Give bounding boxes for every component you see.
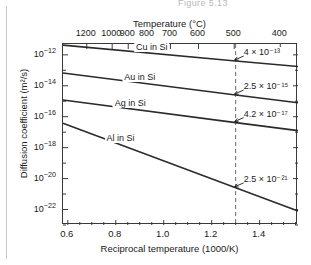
top-tick-700: 700 [162,28,177,38]
top-tick-1000: 1000 [101,28,121,38]
x-tick-0.8: 0.8 [108,228,121,239]
x-tick-1.4: 1.4 [252,228,265,239]
x-axis-title: Reciprocal temperature (1000/K) [0,243,311,254]
series-label-ag-in-si: Ag in Si [113,98,148,108]
top-tick-1200: 1200 [76,28,96,38]
annotation-ag-in-si: 4.2 × 10⁻¹⁷ [243,109,289,119]
series-line-al-in-si [63,123,298,211]
top-axis-title: Temperature (°C) [0,18,311,29]
x-tick-0.6: 0.6 [60,228,73,239]
page-header-fragment: Figure 5.13 [178,0,311,9]
x-tick-1.2: 1.2 [204,228,217,239]
annotation-au-in-si: 2.5 × 10⁻¹⁵ [243,81,290,91]
annotation-cu-in-si: 4 × 10⁻¹³ [243,47,281,57]
top-tick-900: 900 [120,28,135,38]
annotation-al-in-si: 2.5 × 10⁻²¹ [243,174,289,184]
y-tick-1e-14: 10−14 [14,80,56,90]
y-tick-1e-12: 10−12 [14,49,56,59]
plot-canvas [63,44,298,225]
diffusion-coefficient-figure: Figure 5.13 Temperature (°C) Reciprocal … [0,0,311,265]
series-label-al-in-si: Al in Si [105,133,137,143]
series-label-cu-in-si: Cu in Si [134,42,170,52]
top-tick-800: 800 [139,28,154,38]
plot-area: Cu in SiAu in SiAg in SiAl in Si [62,43,297,224]
x-axis-title-text: Reciprocal temperature (1000/K) [101,243,239,254]
top-tick-600: 600 [190,28,205,38]
y-tick-1e-16: 10−16 [14,111,56,121]
series-label-au-in-si: Au in Si [122,72,157,82]
y-tick-1e-18: 10−18 [14,142,56,152]
top-tick-400: 400 [272,28,287,38]
top-tick-500: 500 [226,28,241,38]
page-margin-rule [6,6,7,259]
y-tick-1e-22: 10−22 [14,204,56,214]
y-tick-1e-20: 10−20 [14,173,56,183]
x-tick-1.0: 1.0 [156,228,169,239]
